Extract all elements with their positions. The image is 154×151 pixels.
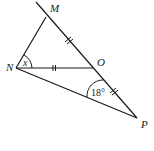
point-label-n: N [5,61,14,73]
segment-nm [16,17,46,68]
point-label-o: O [97,56,105,68]
angle-label-18: 18° [91,87,105,98]
line-mp [36,2,137,118]
point-label-p: P [140,118,148,130]
diagram-svg: M N O P x 18° [0,0,154,151]
segment-np [16,68,137,118]
point-label-m: M [49,2,60,14]
angle-label-x: x [22,57,28,68]
geometry-diagram: M N O P x 18° [0,0,154,151]
